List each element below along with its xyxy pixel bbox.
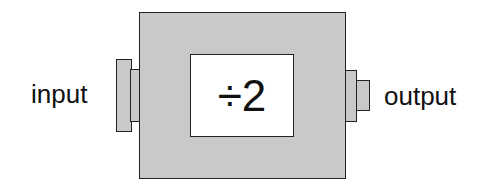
operation-display: ÷2: [190, 54, 294, 137]
input-label: input: [31, 81, 87, 107]
output-label: output: [384, 83, 456, 109]
output-connector-inner: [356, 80, 370, 111]
